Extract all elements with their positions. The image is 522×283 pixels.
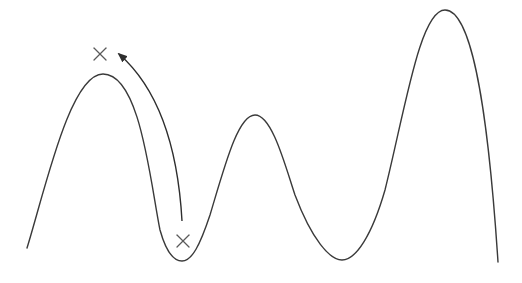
x-marker-start-icon (177, 235, 189, 247)
diagram-svg (0, 0, 522, 283)
jump-arrow (119, 54, 182, 221)
landscape-diagram: Landscape curve with multiple peaks and … (0, 0, 522, 283)
x-marker-target-icon (94, 48, 106, 60)
landscape-curve (27, 10, 498, 262)
